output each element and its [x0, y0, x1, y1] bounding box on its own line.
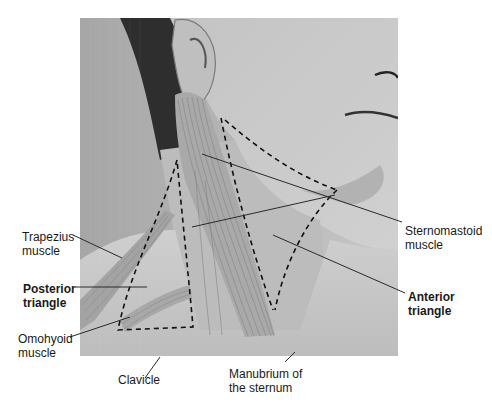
label-manubrium-of-sternum: Manubrium of the sternum: [229, 367, 302, 395]
label-posterior-triangle: Posterior triangle: [23, 282, 76, 310]
photo: [80, 18, 398, 356]
label-sternomastoid-muscle: Sternomastoid muscle: [405, 224, 482, 252]
label-clavicle: Clavicle: [118, 373, 160, 387]
neck-anatomy-figure: [0, 0, 492, 408]
label-omohyoid-muscle: Omohyoid muscle: [18, 332, 73, 360]
label-trapezius-muscle: Trapezius muscle: [22, 230, 74, 258]
label-anterior-triangle: Anterior triangle: [408, 290, 455, 318]
